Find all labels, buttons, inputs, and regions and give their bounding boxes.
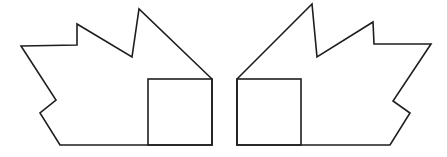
right-figure-outline	[237, 4, 431, 145]
left-figure-outline	[21, 9, 212, 145]
diagram-canvas	[0, 0, 447, 157]
left-figure-inner-square	[148, 79, 212, 145]
right-figure	[237, 4, 431, 145]
left-figure	[21, 9, 212, 145]
mirrored-shapes-diagram	[0, 0, 447, 157]
right-figure-inner-square	[237, 79, 301, 145]
